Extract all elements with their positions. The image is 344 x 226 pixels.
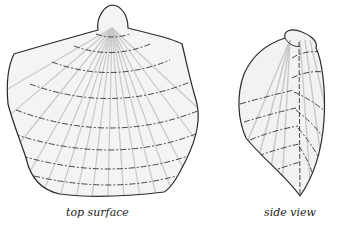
side-view-caption: side view bbox=[264, 206, 316, 219]
top-surface-caption: top surface bbox=[66, 206, 129, 219]
shell-top-surface-drawing bbox=[0, 0, 344, 226]
